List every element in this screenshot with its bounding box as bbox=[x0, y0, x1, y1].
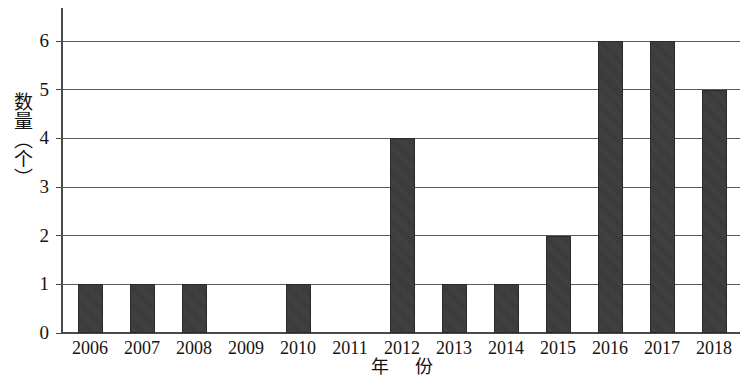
bar-2017 bbox=[650, 41, 675, 333]
y-tick-label-0: 0 bbox=[27, 323, 49, 342]
y-tick-mark-1 bbox=[56, 284, 62, 285]
y-tick-mark-6 bbox=[56, 41, 62, 42]
x-tick-label-2017: 2017 bbox=[636, 338, 688, 358]
x-tick-label-2012: 2012 bbox=[376, 338, 428, 358]
y-tick-label-1: 1 bbox=[27, 274, 49, 293]
x-tick-label-2013: 2013 bbox=[428, 338, 480, 358]
x-tick-label-2006: 2006 bbox=[64, 338, 116, 358]
gridline-y-5 bbox=[61, 89, 740, 90]
bar-2014 bbox=[494, 284, 519, 333]
x-tick-label-2010: 2010 bbox=[272, 338, 324, 358]
x-tick-label-2014: 2014 bbox=[480, 338, 532, 358]
bar-2007 bbox=[130, 284, 155, 333]
x-tick-label-2008: 2008 bbox=[168, 338, 220, 358]
bar-2008 bbox=[182, 284, 207, 333]
bar-2013 bbox=[442, 284, 467, 333]
bar-2018 bbox=[702, 90, 727, 333]
y-tick-label-3: 3 bbox=[27, 177, 49, 196]
bar-2006 bbox=[78, 284, 103, 333]
bar-2015 bbox=[546, 236, 571, 333]
y-tick-label-6: 6 bbox=[27, 31, 49, 50]
y-tick-mark-2 bbox=[56, 235, 62, 236]
bar-2010 bbox=[286, 284, 311, 333]
x-tick-label-2016: 2016 bbox=[584, 338, 636, 358]
y-tick-label-4: 4 bbox=[27, 128, 49, 147]
y-tick-label-5: 5 bbox=[27, 80, 49, 99]
x-tick-label-2018: 2018 bbox=[688, 338, 740, 358]
x-axis-title: 年 份 bbox=[342, 357, 462, 377]
bar-chart: 数量（个） 0123456200620072008200920102011201… bbox=[0, 0, 740, 380]
y-axis-line bbox=[61, 8, 63, 334]
bar-2012 bbox=[390, 138, 415, 333]
y-tick-mark-5 bbox=[56, 89, 62, 90]
y-tick-mark-4 bbox=[56, 138, 62, 139]
y-tick-mark-3 bbox=[56, 187, 62, 188]
y-tick-mark-0 bbox=[56, 333, 62, 334]
x-tick-label-2009: 2009 bbox=[220, 338, 272, 358]
y-tick-label-2: 2 bbox=[27, 226, 49, 245]
gridline-y-6 bbox=[61, 41, 740, 42]
x-tick-label-2007: 2007 bbox=[116, 338, 168, 358]
bar-2016 bbox=[598, 41, 623, 333]
x-tick-label-2015: 2015 bbox=[532, 338, 584, 358]
x-tick-label-2011: 2011 bbox=[324, 338, 376, 358]
